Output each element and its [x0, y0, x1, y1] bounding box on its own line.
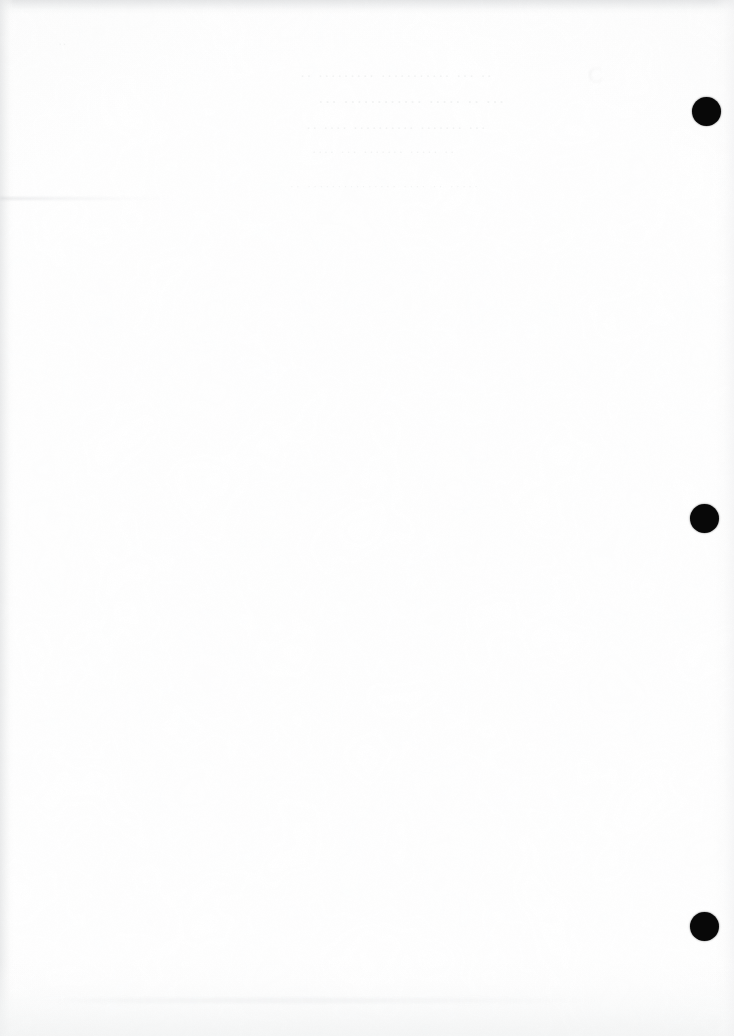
scan-edge-bottom	[0, 958, 734, 1036]
scanned-page: ·· ········· ··········· ··· ·· ··· ····…	[0, 0, 734, 1036]
registration-dot-top	[692, 97, 721, 126]
scan-edge-left	[0, 0, 14, 1036]
registration-dot-bottom	[690, 912, 719, 941]
registration-dot-middle	[690, 504, 719, 533]
scan-edge-top	[0, 0, 734, 14]
paper-surface	[0, 0, 734, 1036]
